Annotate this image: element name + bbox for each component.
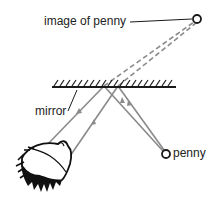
mirror (52, 80, 176, 87)
mirror-leader-line (68, 90, 77, 111)
image-of-penny-label: image of penny (44, 14, 126, 28)
viewer-head-icon (16, 141, 71, 192)
image-of-penny-marker (193, 15, 201, 23)
mirror-reflection-diagram: image of penny mirror penny (0, 0, 220, 200)
incident-ray-left (104, 86, 163, 151)
penny-marker (162, 150, 170, 158)
virtual-rays (104, 22, 196, 86)
incident-ray-right (118, 86, 164, 150)
mirror-label: mirror (35, 104, 66, 118)
penny-label: penny (173, 146, 206, 160)
virtual-ray-right (118, 23, 196, 86)
arrow-icon (120, 97, 125, 103)
virtual-ray-left (104, 22, 194, 86)
ray-arrows (76, 97, 132, 125)
diagram-canvas (0, 0, 220, 200)
image-leader-line (130, 19, 192, 22)
